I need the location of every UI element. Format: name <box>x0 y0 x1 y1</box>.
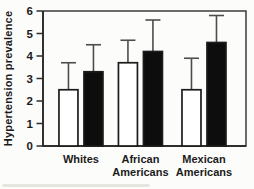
y-tick-label: 6 <box>27 5 33 17</box>
scan-smudge-artifact <box>2 184 150 187</box>
y-tick-label: 1 <box>27 118 34 130</box>
bar-filled-bars <box>84 72 103 146</box>
bar-open-bars <box>118 63 137 146</box>
y-tick-label: 0 <box>27 140 33 152</box>
category-label-line: Americans <box>112 166 168 178</box>
bar-filled-bars <box>207 43 226 147</box>
y-tick-label: 3 <box>27 73 33 85</box>
y-tick-label: 2 <box>27 95 33 107</box>
y-axis-label: Hypertension prevalence <box>2 11 14 146</box>
bar-open-bars <box>59 90 78 146</box>
category-label: AfricanAmericans <box>112 153 168 178</box>
bar-chart-figure: 0123456WhitesAfricanAmericansMexicanAmer… <box>0 0 254 189</box>
category-label-line: Whites <box>63 153 99 165</box>
bar-open-bars <box>182 90 201 146</box>
chart-canvas: 0123456WhitesAfricanAmericansMexicanAmer… <box>0 0 254 189</box>
y-tick-label: 4 <box>27 50 34 62</box>
category-label-line: African <box>121 153 159 165</box>
category-label: Whites <box>63 153 99 165</box>
bar-filled-bars <box>143 52 162 147</box>
category-label-line: Americans <box>176 166 232 178</box>
category-label: MexicanAmericans <box>176 153 232 178</box>
y-tick-label: 5 <box>27 28 34 40</box>
category-label-line: Mexican <box>182 153 226 165</box>
